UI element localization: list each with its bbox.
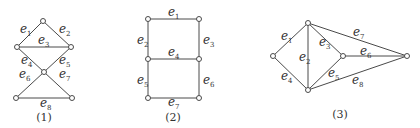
edge-label-e5: e5 bbox=[137, 73, 149, 89]
edge-label-e7: e7 bbox=[59, 67, 71, 83]
edge-subscript: 1 bbox=[175, 13, 179, 21]
edge-label-e6: e6 bbox=[19, 67, 31, 83]
edge-label-e3: e3 bbox=[319, 35, 331, 51]
edge-subscript: 3 bbox=[326, 43, 330, 51]
edge-subscript: 3 bbox=[45, 41, 49, 49]
figure-caption: (2) bbox=[165, 111, 181, 124]
edge-label-e7: e7 bbox=[168, 95, 180, 111]
figure-caption: (3) bbox=[332, 108, 348, 121]
figure-caption: (1) bbox=[36, 111, 52, 124]
vertex bbox=[69, 45, 74, 50]
vertex bbox=[306, 88, 311, 93]
edge-subscript: 8 bbox=[359, 81, 363, 89]
edge-label-e4: e4 bbox=[281, 69, 293, 85]
edge-subscript: 4 bbox=[175, 53, 180, 61]
edge-label-e3: e3 bbox=[203, 33, 215, 49]
edge-subscript: 2 bbox=[144, 41, 148, 49]
edge-subscript: 5 bbox=[66, 61, 70, 69]
edge-label-e1: e1 bbox=[168, 5, 180, 21]
edge-subscript: 3 bbox=[210, 41, 214, 49]
edge-label-e6: e6 bbox=[360, 44, 372, 60]
edge-subscript: 1 bbox=[27, 30, 31, 38]
edge-label-e2: e2 bbox=[137, 33, 149, 49]
vertex bbox=[14, 96, 19, 101]
vertex bbox=[42, 70, 47, 75]
edge-label-e5: e5 bbox=[328, 66, 340, 82]
vertex bbox=[146, 96, 151, 101]
edge-label-e2: e2 bbox=[299, 50, 311, 66]
vertex bbox=[405, 54, 410, 59]
edge-subscript: 2 bbox=[66, 30, 70, 38]
edge-subscript: 6 bbox=[210, 81, 215, 89]
edge-subscript: 5 bbox=[144, 81, 148, 89]
edge-subscript: 7 bbox=[175, 103, 179, 111]
graph-2: e1e2e3e4e5e6e7(2) bbox=[137, 5, 215, 124]
edge-subscript: 7 bbox=[360, 33, 364, 41]
edge-label-e2: e2 bbox=[59, 22, 71, 38]
vertex bbox=[306, 21, 311, 26]
edge-label-e3: e3 bbox=[38, 33, 50, 49]
edge-subscript: 4 bbox=[288, 77, 293, 85]
vertex bbox=[146, 57, 151, 62]
vertex bbox=[15, 45, 20, 50]
vertex bbox=[146, 17, 151, 22]
graph-1: e1e2e3e4e5e6e7e8(1) bbox=[14, 19, 75, 125]
graph-figures: e1e2e3e4e5e6e7e8(1) e1e2e3e4e5e6e7(2) e1… bbox=[0, 0, 420, 128]
edge-label-e6: e6 bbox=[203, 73, 215, 89]
vertex bbox=[271, 54, 276, 59]
edge-subscript: 1 bbox=[288, 37, 292, 45]
edge-subscript: 2 bbox=[306, 58, 310, 66]
edge-label-e8: e8 bbox=[352, 73, 364, 89]
edge-label-e7: e7 bbox=[353, 25, 365, 41]
vertex bbox=[197, 17, 202, 22]
edge-label-e4: e4 bbox=[168, 45, 180, 61]
vertex bbox=[41, 19, 46, 24]
vertex bbox=[70, 96, 75, 101]
edge-label-e1: e1 bbox=[20, 22, 32, 38]
vertex bbox=[197, 57, 202, 62]
edge-subscript: 7 bbox=[66, 75, 70, 83]
edge-label-e1: e1 bbox=[281, 29, 293, 45]
vertex bbox=[341, 54, 346, 59]
edge-subscript: 5 bbox=[335, 74, 339, 82]
vertex bbox=[197, 96, 202, 101]
edge-e5 bbox=[308, 56, 343, 90]
edge-subscript: 6 bbox=[367, 52, 372, 60]
edge-subscript: 4 bbox=[28, 61, 33, 69]
edge-subscript: 6 bbox=[26, 75, 31, 83]
graph-3: e1e2e3e4e5e6e7e8(3) bbox=[271, 21, 410, 122]
